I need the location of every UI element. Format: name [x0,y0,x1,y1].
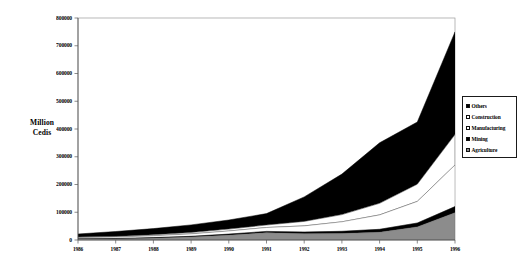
x-tick-label-1995: 1995 [404,246,430,253]
x-tick-marks [78,240,455,244]
chart-figure: Million Cedis 800000 700000 600000 50000… [0,0,519,265]
legend-item-manufacturing: Manufacturing [466,123,514,134]
legend-label-mining: Mining [472,136,488,143]
x-tick-label-1988: 1988 [140,246,166,253]
x-tick-label-1986: 1986 [65,246,91,253]
y-tick-marks [75,18,79,240]
legend-label-manufacturing: Manufacturing [472,125,506,132]
x-tick-label-1992: 1992 [291,246,317,253]
chart-legend: Others Construction Manufacturing Mining… [462,96,517,158]
y-tick-label-500000: 500000 [36,97,72,104]
stacked-area-plot [0,0,519,265]
y-tick-label-800000: 800000 [36,14,72,21]
legend-item-construction: Construction [466,112,514,123]
legend-label-others: Others [472,103,487,110]
y-tick-label-0: 0 [36,236,72,243]
x-tick-label-1996: 1996 [442,246,468,253]
legend-item-mining: Mining [466,134,514,145]
legend-item-others: Others [466,101,514,112]
y-tick-label-700000: 700000 [36,42,72,49]
legend-swatch-agriculture [466,148,470,152]
x-tick-label-1987: 1987 [103,246,129,253]
legend-swatch-others [466,104,470,108]
x-tick-label-1990: 1990 [216,246,242,253]
y-tick-label-200000: 200000 [36,181,72,188]
legend-swatch-construction [466,115,470,119]
legend-item-agriculture: Agriculture [466,145,514,156]
x-tick-label-1991: 1991 [254,246,280,253]
y-tick-label-600000: 600000 [36,70,72,77]
y-tick-label-100000: 100000 [36,208,72,215]
x-tick-label-1994: 1994 [367,246,393,253]
y-tick-label-300000: 300000 [36,153,72,160]
y-tick-label-400000: 400000 [36,125,72,132]
legend-swatch-manufacturing [466,126,470,130]
x-tick-label-1989: 1989 [178,246,204,253]
legend-label-agriculture: Agriculture [472,147,498,154]
legend-label-construction: Construction [472,114,501,121]
x-tick-label-1993: 1993 [329,246,355,253]
legend-swatch-mining [466,137,470,141]
